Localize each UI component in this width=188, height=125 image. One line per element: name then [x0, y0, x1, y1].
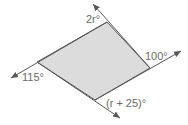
label-bottom: (r + 25)° [106, 97, 146, 109]
label-left: 115° [22, 71, 44, 83]
quadrilateral-shape [37, 22, 150, 100]
label-right: 100° [145, 50, 168, 62]
label-top: 2r° [86, 13, 100, 25]
quadrilateral-diagram: 2r° 100° 115° (r + 25)° [0, 0, 188, 125]
